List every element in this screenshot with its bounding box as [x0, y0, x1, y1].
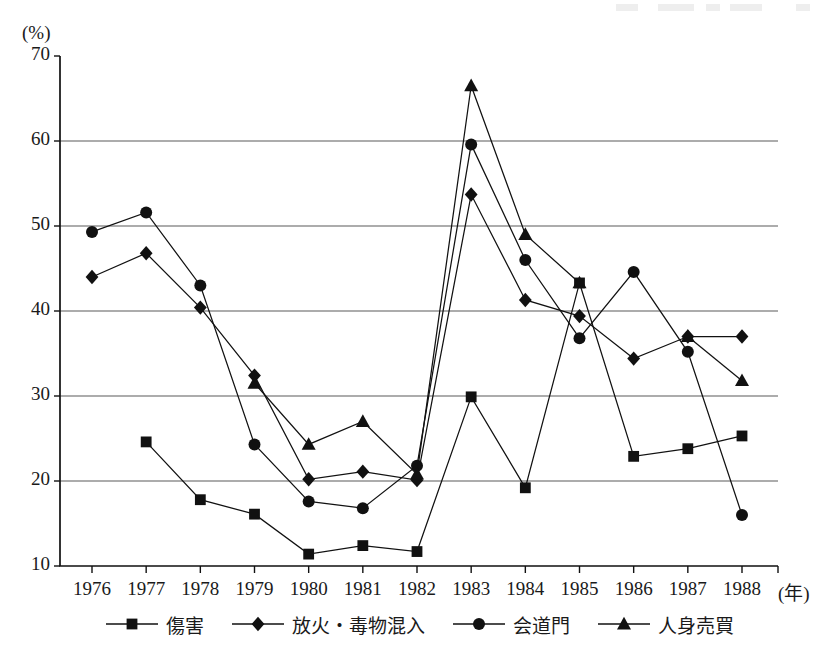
- series-line: [688, 337, 742, 381]
- data-point-circle: [86, 226, 98, 238]
- data-point-circle: [303, 495, 315, 507]
- data-point-square: [520, 482, 531, 493]
- data-point-circle: [736, 509, 748, 521]
- series-2: [86, 187, 749, 487]
- y-tick-label: 60: [4, 128, 50, 150]
- data-point-square: [303, 549, 314, 560]
- data-point-circle: [249, 438, 261, 450]
- data-point-diamond: [736, 329, 749, 343]
- series-line: [146, 283, 742, 554]
- data-point-triangle: [518, 227, 532, 240]
- data-point-circle: [194, 280, 206, 292]
- series-line: [255, 86, 580, 474]
- legend-label: 会道門: [510, 611, 570, 638]
- legend-marker-square-icon: [104, 614, 160, 634]
- data-point-triangle: [464, 78, 478, 91]
- data-point-circle: [628, 266, 640, 278]
- series-1: [141, 278, 748, 560]
- data-point-triangle: [248, 376, 262, 389]
- data-point-square: [628, 451, 639, 462]
- y-tick-label: 10: [4, 553, 50, 575]
- data-point-diamond: [302, 472, 315, 486]
- chart-legend: 傷害放火・毒物混入会道門人身売買: [104, 607, 744, 641]
- data-point-diamond: [519, 293, 532, 307]
- data-point-triangle: [735, 373, 749, 386]
- legend-label: 傷害: [163, 611, 204, 638]
- data-point-square: [357, 540, 368, 551]
- data-point-diamond: [465, 187, 478, 201]
- legend-item-4[interactable]: 人身売買: [596, 611, 734, 638]
- y-tick-label: 30: [4, 383, 50, 405]
- y-tick-label: 50: [4, 213, 50, 235]
- legend-marker-triangle-icon: [596, 614, 652, 634]
- legend-label: 放火・毒物混入: [289, 611, 425, 638]
- line-chart: (%) 10203040506070 197619771978197919801…: [0, 0, 816, 650]
- data-point-square: [737, 431, 748, 442]
- legend-marker-circle-icon: [451, 614, 507, 634]
- series-3: [86, 138, 748, 521]
- series-line: [92, 144, 742, 515]
- data-point-square: [682, 443, 693, 454]
- data-point-circle: [574, 332, 586, 344]
- legend-item-3[interactable]: 会道門: [451, 611, 570, 638]
- data-point-triangle: [356, 414, 370, 427]
- data-point-square: [195, 494, 206, 505]
- data-point-circle: [682, 346, 694, 358]
- plot-area: [0, 0, 816, 650]
- data-point-circle: [465, 138, 477, 150]
- y-tick-label: 40: [4, 298, 50, 320]
- legend-item-1[interactable]: 傷害: [104, 611, 204, 638]
- legend-marker-diamond-icon: [230, 614, 286, 634]
- legend-item-2[interactable]: 放火・毒物混入: [230, 611, 425, 638]
- x-axis-unit-label: (年): [778, 578, 810, 605]
- data-point-square: [412, 546, 423, 557]
- x-tick-label: 1988: [707, 578, 777, 600]
- data-point-square: [141, 437, 152, 448]
- data-point-square: [249, 509, 260, 520]
- data-point-circle: [519, 254, 531, 266]
- y-tick-label: 20: [4, 468, 50, 490]
- data-point-diamond: [627, 351, 640, 365]
- data-point-square: [466, 391, 477, 402]
- y-tick-label: 70: [4, 43, 50, 65]
- data-point-circle: [357, 502, 369, 514]
- series-4: [248, 78, 750, 479]
- data-point-diamond: [356, 464, 369, 478]
- data-point-diamond: [86, 270, 99, 284]
- legend-label: 人身売買: [655, 611, 734, 638]
- series-line: [92, 195, 742, 481]
- data-point-circle: [140, 206, 152, 218]
